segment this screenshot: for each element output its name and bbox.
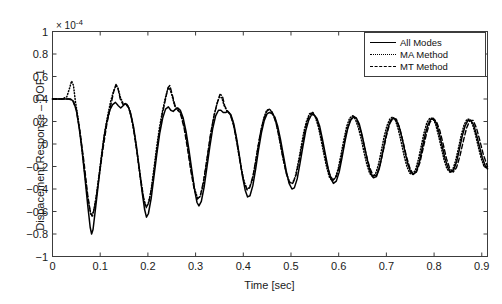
- data-curves: [53, 81, 488, 234]
- legend-label: All Modes: [400, 38, 442, 48]
- legend-item: MA Method: [367, 49, 483, 60]
- legend-swatch-solid: [370, 38, 396, 47]
- legend-label: MA Method: [400, 50, 448, 60]
- series-line: [53, 99, 488, 234]
- legend-swatch-dashed: [370, 62, 396, 71]
- chart-legend: All Modes MA Method MT Method: [364, 32, 486, 77]
- legend-item: MT Method: [367, 61, 483, 72]
- legend-swatch-dotted: [370, 50, 396, 59]
- legend-label: MT Method: [400, 62, 448, 72]
- legend-item: All Modes: [367, 37, 483, 48]
- chart-figure: × 10-4 Dispacement Response – DOF 1 10.8…: [0, 0, 502, 304]
